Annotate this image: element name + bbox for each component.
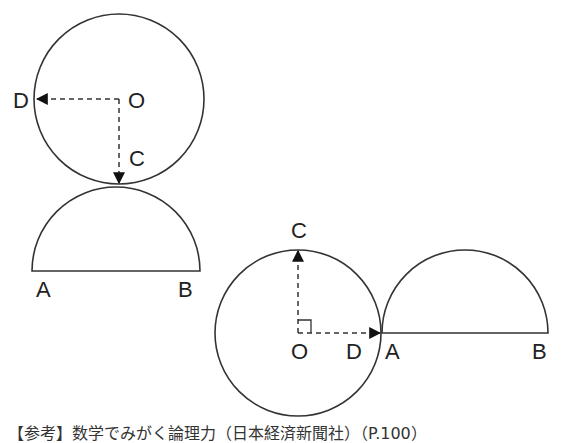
reference-caption: 【参考】数学でみがく論理力（日本経済新聞社）（P.100） <box>8 426 427 442</box>
label-c-fig1: C <box>129 148 145 170</box>
semicircle-2 <box>382 250 548 333</box>
label-b-fig2: B <box>532 341 547 363</box>
semicircle-1 <box>32 187 200 271</box>
label-d-fig2: D <box>346 341 362 363</box>
label-a-fig1: A <box>36 279 51 301</box>
figure-2 <box>215 250 548 416</box>
right-angle-mark <box>298 320 311 333</box>
label-b-fig1: B <box>178 279 193 301</box>
label-o-fig1: O <box>128 90 145 112</box>
figure-1 <box>32 14 204 271</box>
label-d-fig1: D <box>13 90 29 112</box>
label-o-fig2: O <box>291 341 308 363</box>
label-a-fig2: A <box>385 341 400 363</box>
label-c-fig2: C <box>291 220 307 242</box>
